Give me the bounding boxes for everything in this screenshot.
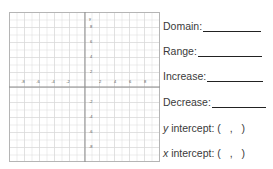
x-intercept-label: intercept:	[168, 147, 214, 159]
y-tick-label: 2	[90, 69, 93, 74]
increase-label: Increase:	[163, 70, 206, 82]
y-tick-label: 6	[90, 39, 93, 44]
y-tick-label: -6	[89, 129, 93, 134]
x-intercept-field[interactable]: x intercept: ( , )	[163, 143, 246, 159]
y-tick-label: 8	[90, 24, 93, 29]
y-tick-label: 4	[90, 54, 93, 59]
y-tick-labels-negative: -2 -4 -6 -8	[89, 99, 93, 149]
y-intercept-label: intercept:	[168, 122, 214, 134]
y-tick-labels-positive: 8 6 4 2	[90, 24, 93, 74]
coordinate-grid: y -8 -6 -4 -2 2 4 6 8 8 6 4 2 -2 -4 -6 -…	[9, 12, 160, 162]
range-blank[interactable]	[198, 45, 262, 57]
domain-label: Domain:	[163, 20, 202, 32]
range-label: Range:	[163, 45, 197, 57]
y-intercept-field[interactable]: y intercept: ( , )	[163, 118, 246, 134]
decrease-field[interactable]: Decrease:	[163, 92, 266, 108]
decrease-label: Decrease:	[163, 96, 211, 108]
y-axis-label: y	[89, 16, 91, 21]
decrease-blank[interactable]	[212, 96, 266, 108]
range-field[interactable]: Range:	[163, 41, 262, 57]
increase-field[interactable]: Increase:	[163, 66, 263, 82]
y-tick-label: -2	[89, 99, 93, 104]
y-tick-label: -8	[89, 144, 93, 149]
domain-blank[interactable]	[203, 20, 261, 32]
y-tick-label: -4	[89, 114, 93, 119]
domain-field[interactable]: Domain:	[163, 16, 261, 32]
x-intercept-value[interactable]: ( , )	[217, 147, 246, 159]
y-intercept-value[interactable]: ( , )	[217, 122, 246, 134]
grid-svg: y -8 -6 -4 -2 2 4 6 8 8 6 4 2 -2 -4 -6 -…	[9, 12, 160, 162]
increase-blank[interactable]	[207, 70, 263, 82]
